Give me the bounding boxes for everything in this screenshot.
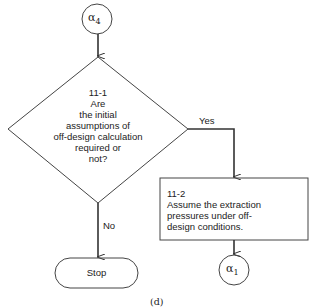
start-connector-label: α4 bbox=[88, 12, 101, 27]
decision-text: 11-1 Are the initial assumptions of off-… bbox=[38, 87, 158, 164]
no-label: No bbox=[103, 220, 115, 231]
process-text: 11-2 Assume the extraction pressures und… bbox=[167, 188, 305, 232]
figure-caption: (d) bbox=[150, 296, 164, 307]
stop-label: Stop bbox=[55, 267, 138, 278]
end-connector-label: α1 bbox=[226, 263, 239, 278]
yes-label: Yes bbox=[199, 115, 215, 126]
